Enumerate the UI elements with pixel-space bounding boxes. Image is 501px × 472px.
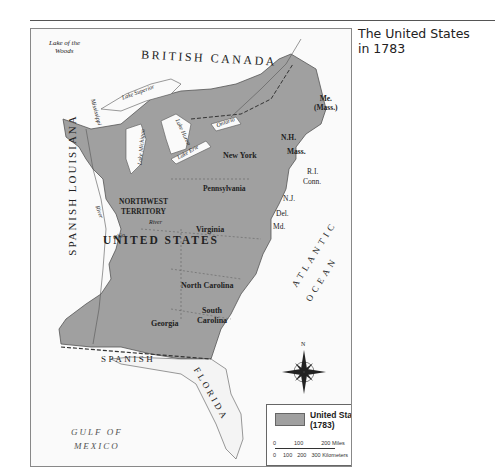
northwest-territory-label: NORTHWESTTERRITORY xyxy=(119,197,168,217)
georgia-label: Georgia xyxy=(151,319,179,328)
us-swatch xyxy=(275,413,305,426)
top-rule xyxy=(30,20,495,21)
mass-label: Mass. xyxy=(287,147,306,156)
pennsylvania-label: Pennsylvania xyxy=(203,184,246,193)
scale-bar xyxy=(275,448,335,449)
compass-rose-icon xyxy=(282,350,326,394)
scale-km: 0100200300 Kilometers xyxy=(273,452,352,458)
scale-miles: 0100200 Miles xyxy=(273,440,352,446)
maine-label: Me.(Mass.) xyxy=(314,94,338,112)
nj-label: N.J. xyxy=(283,194,295,203)
nh-label: N.H. xyxy=(281,133,296,142)
united-states-label: UNITED STATES xyxy=(103,234,219,246)
title-line-2: in 1783 xyxy=(358,41,470,56)
compass-north-label: N xyxy=(301,341,305,347)
conn-label: Conn. xyxy=(303,177,321,186)
map-svg xyxy=(31,29,351,466)
north-carolina-label: North Carolina xyxy=(181,281,234,290)
legend-label: United States(1783) xyxy=(310,410,352,430)
gulf-of-mexico-label: GULF OFMEXICO xyxy=(71,425,123,453)
md-label: Md. xyxy=(273,222,285,231)
south-carolina-label: SouthCarolina xyxy=(197,306,227,326)
title-line-1: The United States xyxy=(358,26,470,41)
map-frame: Lake of theWoods BRITISH CANADA Lake Sup… xyxy=(30,28,352,467)
ri-label: R.I. xyxy=(307,167,318,176)
del-label: Del. xyxy=(276,209,289,218)
map-legend: United States(1783) 0100200 Miles 010020… xyxy=(266,404,352,466)
spanish-louisiana-label: SPANISH LOUISIANA xyxy=(66,114,78,255)
new-york-label: New York xyxy=(223,151,257,160)
virginia-label: Virginia xyxy=(196,225,224,234)
map-title: The United States in 1783 xyxy=(358,26,470,56)
spanish-florida-label-1: SPANISH xyxy=(101,354,155,364)
lake-woods-label: Lake of theWoods xyxy=(49,39,80,55)
ohio-river-label: River xyxy=(149,219,162,225)
